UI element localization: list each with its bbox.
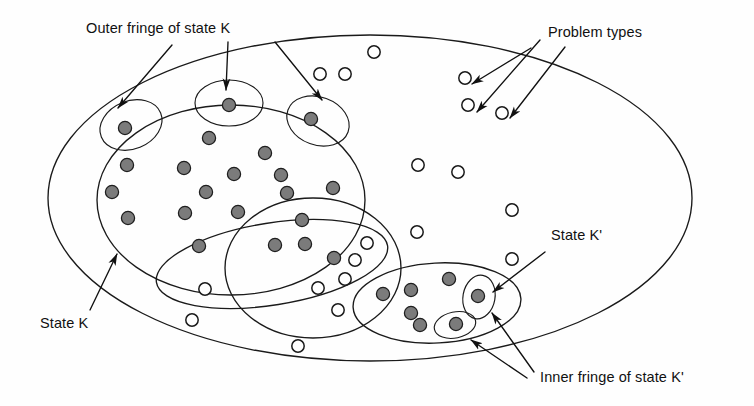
region-state-k-ellipse <box>97 105 365 295</box>
problem-type-open-dot <box>459 72 471 84</box>
label-state-k-prime: State K' <box>551 227 602 243</box>
problem-type-filled-dot <box>202 131 215 144</box>
diagram-figure: Outer fringe of state K Problem types St… <box>0 0 754 406</box>
leader-arrow-problem-types-3 <box>510 47 565 118</box>
problem-type-filled-dot <box>413 318 426 331</box>
problem-type-open-dot <box>332 304 344 316</box>
problem-type-open-dot <box>339 273 351 285</box>
problem-type-filled-dot <box>326 181 339 194</box>
problem-type-filled-dot <box>280 186 293 199</box>
leader-arrow-inner-fringe-k-prime-1 <box>492 313 534 372</box>
problem-type-open-dot <box>496 107 508 119</box>
problem-type-filled-dot <box>298 237 311 250</box>
problem-type-open-dot <box>368 46 380 58</box>
label-inner-fringe-of-state-k-prime: Inner fringe of state K' <box>540 369 684 385</box>
problem-type-filled-dot <box>376 287 389 300</box>
problem-type-open-dot <box>412 159 424 171</box>
problem-type-filled-dot <box>404 283 417 296</box>
problem-type-open-dot <box>312 282 324 294</box>
problem-type-filled-dot <box>177 161 190 174</box>
problem-type-open-dot <box>506 253 518 265</box>
problem-type-open-dot <box>361 237 373 249</box>
problem-type-open-dot <box>339 68 351 80</box>
problem-type-filled-dot <box>404 306 417 319</box>
filled-dots-layer <box>105 98 484 331</box>
inner-fringe-bumps-layer <box>432 273 499 343</box>
region-universe-ellipse <box>48 35 692 361</box>
label-problem-types: Problem types <box>548 24 642 40</box>
leader-arrow-outer-fringe-k-1 <box>118 45 172 108</box>
problem-type-filled-dot <box>449 317 462 330</box>
open-dots-layer <box>186 46 518 352</box>
problem-type-filled-dot <box>295 213 308 226</box>
problem-type-open-dot <box>349 254 361 266</box>
problem-type-filled-dot <box>192 239 205 252</box>
problem-type-filled-dot <box>120 158 133 171</box>
leader-arrow-problem-types-1 <box>472 48 531 84</box>
problem-type-filled-dot <box>121 211 134 224</box>
problem-type-open-dot <box>292 340 304 352</box>
problem-type-open-dot <box>506 204 518 216</box>
outer-fringe-bump-3 <box>280 88 357 155</box>
leader-lines-layer <box>90 40 565 378</box>
leader-arrow-inner-fringe-k-prime-2 <box>471 340 527 378</box>
problem-type-open-dot <box>314 68 326 80</box>
problem-type-filled-dot <box>222 98 235 111</box>
problem-type-open-dot <box>411 226 423 238</box>
problem-type-open-dot <box>186 314 198 326</box>
leader-arrow-state-k-prime-1 <box>493 252 545 292</box>
problem-type-filled-dot <box>258 146 271 159</box>
problem-type-filled-dot <box>274 168 287 181</box>
problem-type-open-dot <box>462 99 474 111</box>
problem-type-filled-dot <box>327 251 340 264</box>
problem-type-filled-dot <box>304 112 317 125</box>
problem-type-filled-dot <box>471 289 484 302</box>
problem-type-filled-dot <box>227 167 240 180</box>
label-state-k: State K <box>40 315 88 331</box>
problem-type-filled-dot <box>118 121 131 134</box>
diagram-canvas: Outer fringe of state K Problem types St… <box>0 0 754 406</box>
problem-type-open-dot <box>199 283 211 295</box>
problem-type-open-dot <box>452 166 464 178</box>
problem-type-filled-dot <box>178 206 191 219</box>
problem-type-filled-dot <box>231 205 244 218</box>
problem-type-filled-dot <box>442 272 455 285</box>
label-outer-fringe-of-state-k: Outer fringe of state K <box>86 20 230 36</box>
problem-type-filled-dot <box>199 185 212 198</box>
problem-type-filled-dot <box>105 185 118 198</box>
regions-layer <box>48 35 692 361</box>
leader-arrow-outer-fringe-k-2 <box>226 42 228 90</box>
problem-type-filled-dot <box>268 238 281 251</box>
